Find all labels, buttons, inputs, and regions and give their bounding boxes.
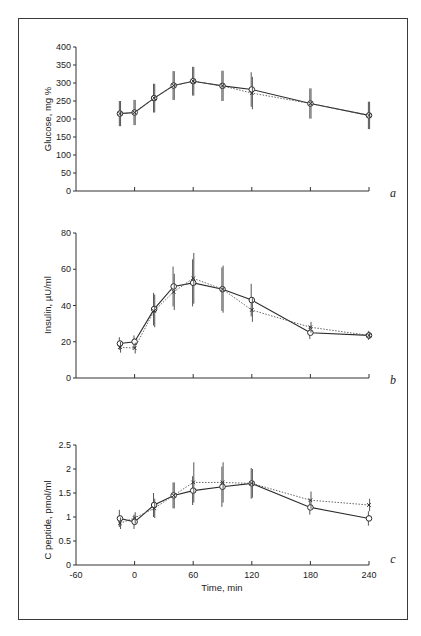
x-marker xyxy=(172,290,176,294)
y-tick-label: 400 xyxy=(56,42,71,52)
y-tick-label: 250 xyxy=(56,96,71,106)
circle-marker xyxy=(220,484,226,490)
y-tick-label: 0 xyxy=(66,560,71,570)
y-tick-label: 2.5 xyxy=(58,440,71,450)
panel-b-y-axis-title: Insulin, µU/ml xyxy=(42,276,53,334)
y-tick-label: 40 xyxy=(61,301,71,311)
y-tick-label: 300 xyxy=(56,78,71,88)
panel-a-letter: a xyxy=(390,186,396,200)
panel-a-plot-area xyxy=(117,67,372,129)
x-tick-label: 0 xyxy=(132,570,137,580)
panel-b-plot-area xyxy=(117,253,372,354)
panel-b-insulin-chart: Insulin, µU/ml b 020406080 xyxy=(42,228,396,387)
y-tick-label: 2 xyxy=(66,464,71,474)
y-tick-label: 60 xyxy=(61,264,71,274)
y-tick-label: 100 xyxy=(56,150,71,160)
circle-marker xyxy=(308,505,314,511)
crosses-series-line xyxy=(120,278,369,348)
circles-series-line xyxy=(120,283,369,344)
circle-marker xyxy=(249,297,255,303)
panel-c-plot-area xyxy=(117,462,372,529)
figure-canvas: Glucose, mg % a 050100150200250300350400… xyxy=(0,0,421,636)
panel-c-x-axis-title: Time, min xyxy=(201,582,242,593)
x-tick-label: 240 xyxy=(361,570,376,580)
x-tick-label: 60 xyxy=(188,570,198,580)
circle-marker xyxy=(190,280,196,286)
y-tick-label: 200 xyxy=(56,114,71,124)
panel-b-axes: 020406080 xyxy=(61,228,369,383)
panel-c-axes: 00.511.522.5-60060120180240 xyxy=(58,440,376,580)
panel-c-letter: c xyxy=(390,552,396,566)
circles-series-line xyxy=(120,483,369,521)
y-tick-label: 80 xyxy=(61,228,71,238)
panel-b-letter: b xyxy=(390,373,396,387)
y-tick-label: 0.5 xyxy=(58,536,71,546)
circle-marker xyxy=(132,519,138,525)
circle-marker xyxy=(171,284,177,290)
circle-marker xyxy=(308,330,314,336)
x-tick-label: -60 xyxy=(69,570,82,580)
circle-marker xyxy=(190,488,196,494)
y-tick-label: 1.5 xyxy=(58,488,71,498)
y-tick-label: 150 xyxy=(56,132,71,142)
panel-a-axes: 050100150200250300350400 xyxy=(56,42,369,196)
y-tick-label: 20 xyxy=(61,337,71,347)
y-tick-label: 0 xyxy=(66,186,71,196)
panel-a-y-axis-title: Glucose, mg % xyxy=(42,86,53,151)
x-tick-label: 180 xyxy=(303,570,318,580)
circle-marker xyxy=(117,341,123,347)
circle-marker xyxy=(366,516,372,522)
panel-c-c-peptide-chart: C peptide, pmol/ml c Time, min 00.511.52… xyxy=(42,440,396,593)
panel-c-y-axis-title: C peptide, pmol/ml xyxy=(42,480,53,559)
panel-a-glucose-chart: Glucose, mg % a 050100150200250300350400 xyxy=(42,42,396,200)
y-tick-label: 1 xyxy=(66,512,71,522)
y-tick-label: 0 xyxy=(66,373,71,383)
y-tick-label: 50 xyxy=(61,168,71,178)
x-marker xyxy=(250,308,254,312)
x-tick-label: 120 xyxy=(244,570,259,580)
circle-marker xyxy=(117,516,123,522)
circle-marker xyxy=(249,87,255,93)
y-tick-label: 350 xyxy=(56,60,71,70)
